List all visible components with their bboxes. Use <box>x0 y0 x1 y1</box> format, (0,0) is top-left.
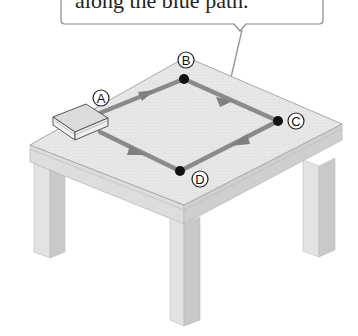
svg-text:C: C <box>291 114 300 129</box>
label-d: D <box>192 171 208 187</box>
table-front-leg <box>170 217 200 326</box>
label-c: C <box>288 113 304 129</box>
label-b: B <box>178 52 194 68</box>
callout-text: along the blue path. <box>75 0 249 13</box>
point-b-dot <box>179 74 189 84</box>
point-c-dot <box>273 116 283 126</box>
point-d-dot <box>175 166 185 176</box>
label-a: A <box>93 90 109 106</box>
svg-text:B: B <box>182 53 191 68</box>
table-path-diagram: along the blue path. <box>0 0 358 336</box>
svg-text:D: D <box>195 172 204 187</box>
svg-text:A: A <box>97 91 106 106</box>
